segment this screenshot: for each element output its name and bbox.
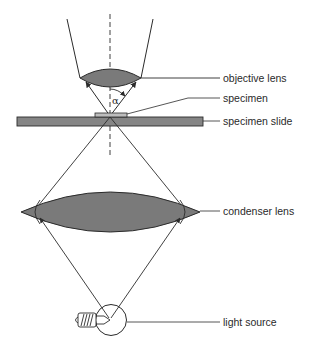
light-bulb-icon	[76, 305, 127, 336]
light-source-label: light source	[223, 317, 277, 328]
alpha-angle-label: α	[112, 96, 119, 106]
condenser-lens-label: condenser lens	[223, 206, 294, 217]
specimen	[95, 113, 127, 117]
ray-source-to-condenser-left	[40, 218, 109, 318]
objective-lens	[80, 69, 141, 87]
objective-tube-left	[67, 19, 80, 78]
specimen-slide-label: specimen slide	[223, 116, 292, 127]
microscope-diagram	[0, 0, 310, 354]
specimen-slide	[17, 117, 203, 126]
specimen-leader	[127, 98, 188, 114]
objective-lens-label: objective lens	[223, 73, 287, 84]
ray-source-to-condenser-right	[111, 218, 180, 318]
condenser-lens	[21, 192, 200, 232]
specimen-label: specimen	[223, 93, 268, 104]
objective-tube-right	[141, 19, 153, 78]
